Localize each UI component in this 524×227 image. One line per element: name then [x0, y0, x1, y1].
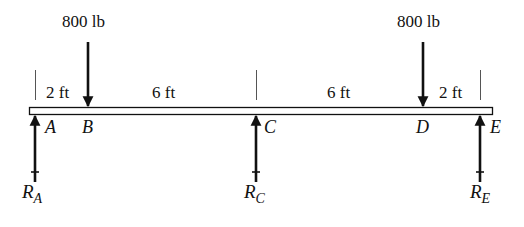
- point-d-label: D: [415, 117, 429, 137]
- dimension-ticks: [36, 70, 481, 100]
- reaction-c-subscript: C: [256, 191, 266, 206]
- reaction-a-symbol: R: [21, 181, 34, 202]
- dimension-d-e: 2 ft: [439, 83, 462, 102]
- reaction-c: RC: [243, 116, 266, 206]
- point-a-label: A: [44, 117, 57, 137]
- load-d: 800 lb: [397, 12, 440, 106]
- reaction-e-label: RE: [469, 181, 491, 206]
- reaction-c-label: RC: [243, 181, 266, 206]
- beam-diagram: 2 ft 6 ft 6 ft 2 ft 800 lb 800 lb RA RC …: [0, 0, 524, 227]
- beam: [30, 108, 493, 115]
- point-b-label: B: [82, 117, 93, 137]
- dimension-c-d: 6 ft: [327, 83, 350, 102]
- point-labels: A B C D E: [44, 117, 501, 137]
- point-e-label: E: [489, 117, 501, 137]
- dimension-b-c: 6 ft: [152, 83, 175, 102]
- dimension-labels: 2 ft 6 ft 6 ft 2 ft: [46, 83, 462, 102]
- reaction-e: RE: [469, 116, 491, 206]
- reaction-a: RA: [21, 116, 43, 206]
- load-b-label: 800 lb: [62, 12, 105, 31]
- reaction-e-subscript: E: [481, 191, 491, 206]
- dimension-a-b: 2 ft: [46, 83, 69, 102]
- reaction-c-symbol: R: [243, 181, 256, 202]
- load-d-label: 800 lb: [397, 12, 440, 31]
- point-c-label: C: [264, 117, 277, 137]
- reaction-a-subscript: A: [33, 191, 43, 206]
- reaction-a-label: RA: [21, 181, 43, 206]
- reaction-e-symbol: R: [469, 181, 482, 202]
